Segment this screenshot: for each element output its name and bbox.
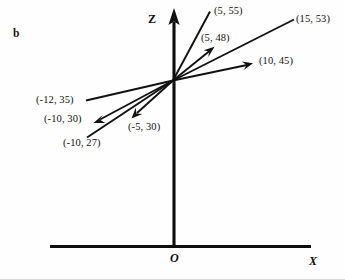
annotation-label-neg12-35: (-12, 35) [36, 95, 74, 106]
annotation-label-10-45: (10, 45) [259, 56, 293, 67]
vector-neg10-30-arrow-icon [94, 115, 106, 123]
origin-label: O [170, 252, 179, 264]
diagram-canvas [0, 0, 345, 280]
annotation-label-neg10-27: (-10, 27) [63, 138, 101, 149]
axes-group [50, 8, 311, 247]
annotation-label-neg10-30: (-10, 30) [44, 114, 82, 125]
vector-diagram-figure: b Z X O (5, 55) (15, 53) (5, 48) (10, 45… [0, 0, 345, 280]
vector-15-53 [173, 20, 294, 81]
vector-neg12-35 [86, 81, 173, 101]
annotation-label-neg5-30: (-5, 30) [128, 122, 160, 133]
annotation-label-5-48: (5, 48) [201, 33, 230, 44]
z-axis-label: Z [148, 13, 156, 25]
panel-label-b: b [13, 28, 19, 40]
annotation-label-15-53: (15, 53) [296, 14, 330, 25]
vector-rays-group [86, 12, 294, 138]
x-axis-label: X [309, 255, 317, 267]
annotation-label-5-55: (5, 55) [214, 6, 243, 17]
